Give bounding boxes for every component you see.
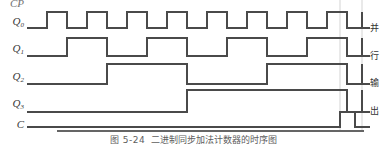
waveform-svg bbox=[0, 0, 387, 132]
leader-lines bbox=[362, 28, 370, 127]
timing-diagram-figure: CP Q0 Q1 Q2 Q3 C 并 行 输 出 图 5-24 bbox=[0, 0, 387, 149]
waveform-traces bbox=[27, 12, 362, 127]
annotation-column: 并 行 输 出 bbox=[370, 0, 387, 131]
waveform-q0 bbox=[27, 12, 362, 28]
caption-divider bbox=[57, 130, 364, 132]
waveform-q2 bbox=[27, 64, 362, 84]
figure-caption: 图 5-24二进制同步加法计数器的时序图 bbox=[0, 135, 387, 146]
waveform-plot bbox=[0, 0, 387, 132]
annotation-label-2: 行 bbox=[370, 52, 379, 61]
guide-lines bbox=[340, 0, 362, 130]
annotation-label-1: 并 bbox=[370, 24, 379, 33]
figure-caption-text: 二进制同步加法计数器的时序图 bbox=[151, 135, 277, 145]
figure-number: 图 5-24 bbox=[110, 135, 145, 145]
annotation-label-4: 出 bbox=[370, 107, 379, 116]
waveform-c bbox=[27, 112, 362, 127]
waveform-q1 bbox=[27, 38, 362, 56]
annotation-label-3: 输 bbox=[370, 79, 379, 88]
waveform-q3 bbox=[27, 90, 362, 112]
